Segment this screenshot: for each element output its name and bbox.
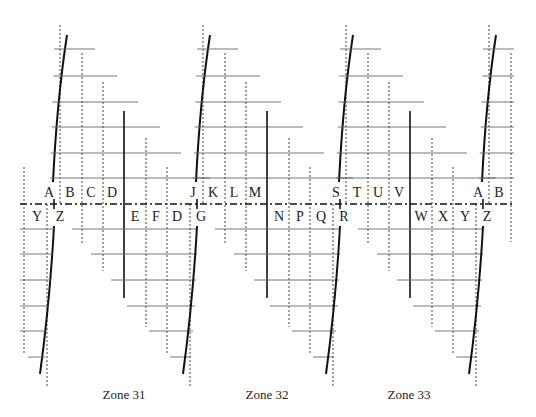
zone-label: Zone 31 bbox=[103, 387, 146, 402]
row-letter-south: P bbox=[296, 209, 304, 224]
row-letter-north: K bbox=[208, 185, 218, 200]
row-letter-south: G bbox=[196, 209, 206, 224]
row-letter-north: T bbox=[353, 185, 362, 200]
utm-grid-diagram: ABCDJKLMSTUVAB YZEFDGNPQRWXYZ Zone 31Zon… bbox=[0, 0, 536, 417]
row-letter-north: A bbox=[44, 185, 55, 200]
grid-lines bbox=[20, 25, 514, 386]
north-row-letters: ABCDJKLMSTUVAB bbox=[44, 185, 504, 200]
row-letter-north: V bbox=[394, 185, 404, 200]
row-letter-south: Y bbox=[32, 209, 42, 224]
row-letter-south: D bbox=[172, 209, 182, 224]
row-letter-south: N bbox=[274, 209, 284, 224]
row-letter-south: W bbox=[414, 209, 428, 224]
zone-labels: Zone 31Zone 32Zone 33 bbox=[103, 387, 431, 402]
row-letter-north: U bbox=[373, 185, 383, 200]
zone-label: Zone 32 bbox=[246, 387, 289, 402]
row-letter-north: B bbox=[65, 185, 74, 200]
row-letter-north: B bbox=[494, 185, 503, 200]
row-letter-north: A bbox=[473, 185, 484, 200]
row-letter-north: L bbox=[230, 185, 239, 200]
row-letter-south: Y bbox=[460, 209, 470, 224]
row-letter-south: Z bbox=[483, 209, 492, 224]
row-letter-north: D bbox=[107, 185, 117, 200]
row-letter-south: X bbox=[438, 209, 448, 224]
south-row-letters: YZEFDGNPQRWXYZ bbox=[32, 209, 491, 224]
row-letter-south: E bbox=[131, 209, 140, 224]
zone-label: Zone 33 bbox=[388, 387, 431, 402]
row-letter-south: Z bbox=[56, 209, 65, 224]
row-letter-south: Q bbox=[316, 209, 326, 224]
row-letter-north: S bbox=[332, 185, 340, 200]
row-letter-north: C bbox=[86, 185, 95, 200]
row-letter-north: J bbox=[190, 185, 196, 200]
row-letter-south: R bbox=[339, 209, 349, 224]
row-letter-south: F bbox=[152, 209, 160, 224]
row-letter-north: M bbox=[249, 185, 262, 200]
